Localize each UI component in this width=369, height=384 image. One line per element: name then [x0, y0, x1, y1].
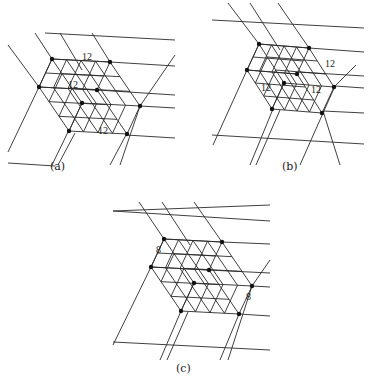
- road-line: [239, 314, 270, 316]
- label-b-2: 12: [261, 83, 271, 93]
- node-dot: [295, 72, 299, 76]
- road-line: [113, 342, 270, 350]
- label-a-3: 12: [98, 126, 108, 136]
- road-line: [278, 3, 309, 48]
- grid-line: [297, 85, 309, 111]
- node-dot: [37, 85, 41, 89]
- road-line: [212, 135, 364, 144]
- node-dot: [95, 88, 99, 92]
- node-dot: [192, 281, 196, 285]
- node-dot: [67, 129, 71, 133]
- road-line: [300, 86, 335, 165]
- road-line: [113, 267, 151, 345]
- grid-line: [151, 267, 181, 311]
- grid-line: [272, 83, 284, 109]
- road-line: [113, 205, 270, 211]
- road-line: [212, 20, 364, 28]
- road-line: [110, 135, 126, 165]
- road-line: [140, 55, 175, 106]
- road-line: [92, 33, 110, 62]
- node-dot: [149, 265, 153, 269]
- road-line: [45, 33, 175, 40]
- road-line: [309, 48, 364, 52]
- node-dot: [282, 81, 286, 85]
- node-dot: [125, 132, 129, 136]
- caption-a: (a): [50, 160, 65, 173]
- grid-line: [110, 62, 140, 106]
- road-line: [220, 314, 239, 360]
- grid-line: [322, 87, 334, 113]
- node-dot: [220, 240, 224, 244]
- label-c-2: 8: [246, 292, 251, 302]
- node-dot: [138, 104, 142, 108]
- road-line: [97, 90, 175, 95]
- label-b-1: 12: [325, 59, 335, 69]
- label-b-3: 12: [311, 85, 321, 95]
- road-line: [126, 135, 175, 138]
- node-dot: [50, 57, 54, 61]
- diagram-canvas: [0, 0, 369, 384]
- node-dot: [237, 312, 241, 316]
- road-line: [110, 62, 175, 66]
- road-line: [323, 111, 364, 113]
- road-line: [335, 86, 364, 88]
- grid-line: [255, 57, 267, 83]
- node-dot: [307, 46, 311, 50]
- road-line: [194, 202, 222, 242]
- grid-line: [222, 242, 252, 286]
- node-dot: [320, 111, 324, 115]
- node-dot: [250, 284, 254, 288]
- grid-line: [127, 106, 140, 134]
- road-line: [140, 106, 175, 108]
- label-a-2: 12: [68, 80, 78, 90]
- node-dot: [270, 107, 274, 111]
- road-line: [250, 109, 273, 165]
- road-line: [213, 70, 247, 145]
- grid-line: [39, 87, 69, 131]
- road-line: [250, 3, 280, 50]
- road-line: [222, 242, 270, 244]
- label-c-1: 8: [156, 245, 161, 255]
- node-dot: [332, 85, 336, 89]
- road-line: [139, 202, 164, 239]
- road-line: [323, 111, 340, 165]
- road-line: [8, 163, 55, 166]
- road-line: [252, 286, 270, 287]
- node-dot: [162, 237, 166, 241]
- caption-c: (c): [176, 362, 191, 375]
- caption-b: (b): [282, 160, 298, 173]
- road-line: [113, 211, 270, 221]
- label-a-1: 12: [82, 52, 92, 62]
- grid-line: [285, 84, 297, 110]
- node-dot: [108, 60, 112, 64]
- road-line: [35, 33, 52, 59]
- node-dot: [245, 68, 249, 72]
- node-dot: [179, 309, 183, 313]
- node-dot: [207, 268, 211, 272]
- road-line: [8, 87, 39, 152]
- node-dot: [80, 101, 84, 105]
- road-line: [8, 45, 39, 87]
- node-dot: [257, 42, 261, 46]
